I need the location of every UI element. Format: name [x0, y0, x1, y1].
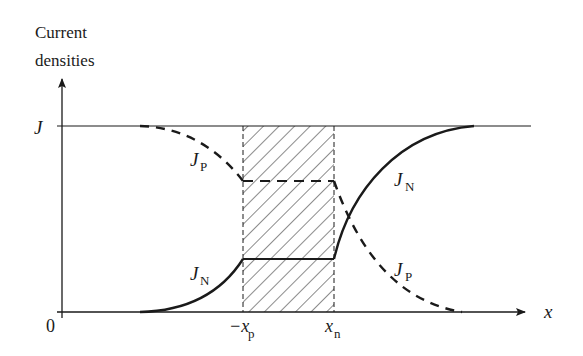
- x-axis-label: x: [543, 301, 553, 322]
- svg-text:n: n: [334, 326, 341, 341]
- current-density-diagram: Current densities x 0 J J P J N J N J P …: [0, 0, 583, 356]
- svg-text:x: x: [324, 316, 333, 336]
- origin-label: 0: [46, 316, 55, 336]
- depletion-region-hatch: [243, 126, 334, 312]
- svg-text:p: p: [248, 326, 255, 341]
- svg-text:J: J: [394, 259, 404, 280]
- y-axis-title-line2: densities: [35, 51, 95, 70]
- label-jn-right: J N: [394, 169, 415, 194]
- jn-curve-right: [334, 126, 474, 259]
- label-jp-left: J P: [190, 149, 207, 174]
- svg-text:N: N: [405, 179, 415, 194]
- j-level-label: J: [34, 117, 44, 138]
- svg-text:J: J: [190, 149, 200, 170]
- label-jp-right: J P: [394, 259, 412, 284]
- svg-text:P: P: [200, 159, 207, 174]
- svg-text:J: J: [394, 169, 404, 190]
- label-jn-left: J N: [190, 263, 210, 288]
- svg-text:−x: −x: [229, 316, 249, 336]
- tick-label-neg-xp: −x p: [229, 316, 255, 341]
- y-axis-title-line1: Current: [35, 23, 87, 42]
- svg-text:J: J: [190, 263, 200, 284]
- svg-text:P: P: [405, 269, 412, 284]
- svg-text:N: N: [200, 273, 210, 288]
- tick-label-xn: x n: [324, 316, 341, 341]
- jp-curve-right: [334, 181, 462, 312]
